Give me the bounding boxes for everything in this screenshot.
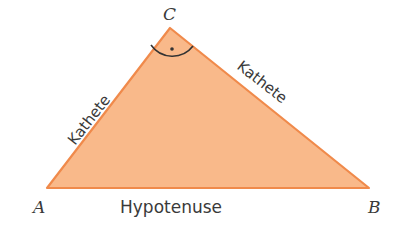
vertex-label-b: B [367, 197, 381, 217]
vertex-label-a: A [31, 197, 45, 217]
right-angle-dot-icon [170, 47, 174, 51]
hypotenuse-label: Hypotenuse [120, 197, 222, 217]
right-triangle-diagram: C A B Kathete Kathete Hypotenuse [0, 0, 403, 231]
vertex-label-c: C [163, 4, 176, 24]
